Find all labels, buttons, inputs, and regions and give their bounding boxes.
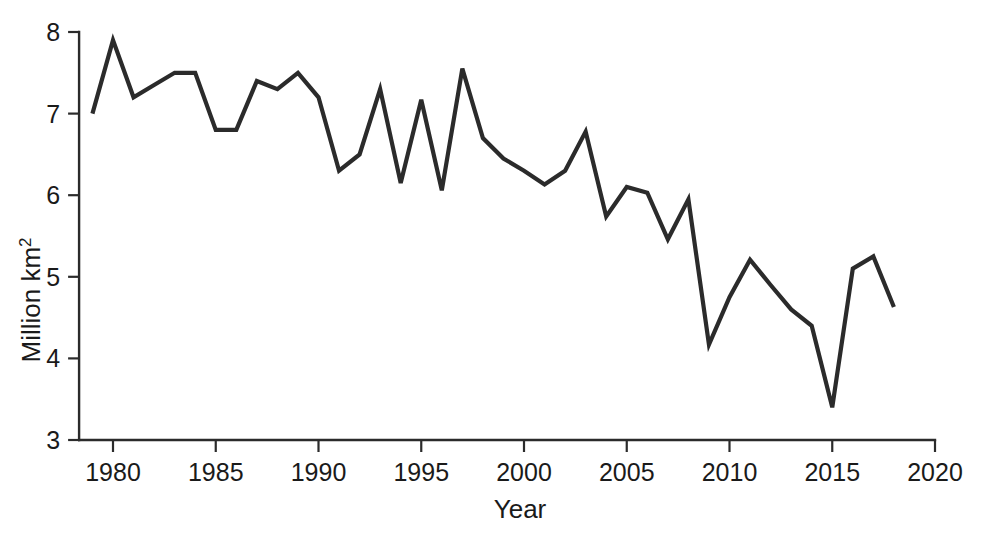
x-tick-label: 2020 xyxy=(907,458,963,486)
x-tick-label: 2015 xyxy=(804,458,860,486)
x-tick-label: 2005 xyxy=(599,458,655,486)
x-axis-title: Year xyxy=(494,494,547,524)
x-axis-tick-labels: 198019851990199520002005201020152020 xyxy=(85,458,963,486)
x-tick-label: 2000 xyxy=(496,458,552,486)
chart-figure: 345678 198019851990199520002005201020152… xyxy=(0,0,988,536)
y-tick-label: 4 xyxy=(46,344,60,372)
x-tick-label: 1995 xyxy=(393,458,449,486)
y-tick-label: 6 xyxy=(46,181,60,209)
x-axis-ticks xyxy=(113,440,935,452)
axes xyxy=(79,32,935,440)
x-tick-label: 1990 xyxy=(291,458,347,486)
data-series-line xyxy=(92,40,893,407)
x-tick-label: 2010 xyxy=(702,458,758,486)
y-tick-label: 3 xyxy=(46,426,60,454)
y-axis-tick-labels: 345678 xyxy=(46,18,60,454)
y-axis-ticks xyxy=(68,32,79,440)
y-tick-label: 8 xyxy=(46,18,60,46)
x-tick-label: 1985 xyxy=(188,458,244,486)
line-chart-canvas: 345678 198019851990199520002005201020152… xyxy=(0,0,988,536)
y-axis-title: Million km2 xyxy=(16,237,46,362)
y-tick-label: 7 xyxy=(46,100,60,128)
y-tick-label: 5 xyxy=(46,263,60,291)
svg-text:Million km2: Million km2 xyxy=(16,237,46,362)
x-tick-label: 1980 xyxy=(85,458,141,486)
x-axis-title-label: Year xyxy=(494,494,547,524)
